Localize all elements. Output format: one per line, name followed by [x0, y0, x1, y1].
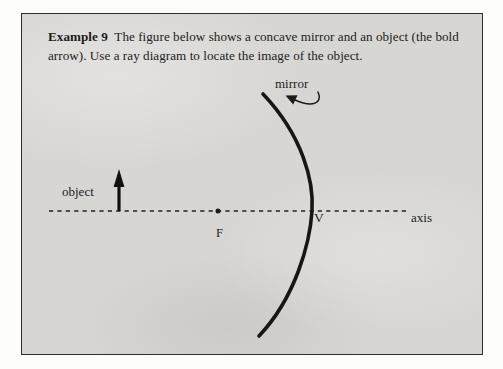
object-label: object	[62, 184, 94, 200]
figure-panel: Example 9 The figure below shows a conca…	[21, 13, 483, 355]
axis-label: axis	[411, 210, 432, 226]
optics-diagram: object axis mirror F V	[22, 14, 484, 356]
mirror-pointer-arrow	[286, 92, 320, 105]
vertex-label: V	[314, 210, 324, 226]
mirror-arc	[259, 94, 312, 336]
page-canvas: Example 9 The figure below shows a conca…	[0, 0, 503, 369]
focal-point-dot	[216, 209, 221, 214]
object-arrow	[114, 169, 125, 211]
focal-point-label: F	[216, 226, 223, 241]
mirror-label: mirror	[275, 76, 308, 92]
